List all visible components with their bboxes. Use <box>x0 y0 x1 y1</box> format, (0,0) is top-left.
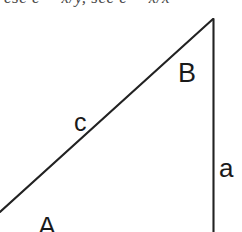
figure-canvas: cse c = x/y, sec c = x/x B c a A <box>0 0 242 232</box>
side-label-c: c <box>74 110 87 135</box>
triangle-drawing <box>0 0 242 232</box>
angle-label-b: B <box>178 60 196 87</box>
angle-label-a-clip: A <box>38 214 68 232</box>
side-label-a: a <box>219 155 233 181</box>
hypotenuse-line-c <box>0 19 213 212</box>
angle-label-a: A <box>38 214 56 232</box>
